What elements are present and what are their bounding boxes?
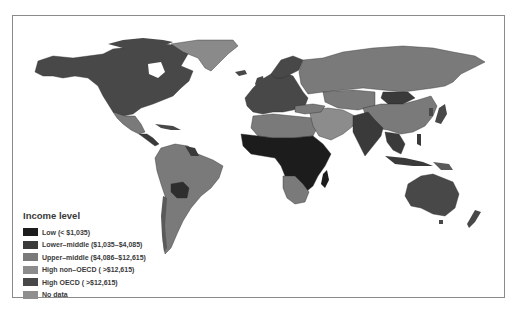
- legend-swatch: [23, 278, 38, 286]
- legend-label: Lower–middle ($1,035–$4,085): [42, 241, 142, 248]
- legend-label: High OECD ( >$12,615): [42, 279, 118, 286]
- region-north-africa: [251, 114, 317, 138]
- legend-swatch: [23, 241, 38, 249]
- region-north-america: [35, 44, 193, 116]
- region-southeast-asia: [385, 132, 405, 154]
- region-caribbean: [155, 124, 181, 130]
- region-tasmania: [439, 220, 443, 224]
- legend-label: Low (< $1,035): [42, 229, 90, 236]
- region-scandinavia: [271, 56, 303, 78]
- legend-item-low: Low (< $1,035): [23, 226, 146, 238]
- region-new-zealand: [467, 210, 481, 228]
- legend-title: Income level: [23, 210, 146, 221]
- legend-label: No data: [42, 291, 68, 298]
- region-central-america: [139, 134, 159, 146]
- region-madagascar: [321, 170, 329, 188]
- region-australia: [405, 174, 459, 216]
- legend-label: Upper–middle ($4,086–$12,615): [42, 254, 146, 261]
- legend-item-high-non-oecd: High non–OECD ( >$12,615): [23, 264, 146, 276]
- map-frame: Income level Low (< $1,035) Lower–middle…: [12, 15, 505, 298]
- legend-swatch: [23, 253, 38, 261]
- legend: Income level Low (< $1,035) Lower–middle…: [23, 210, 146, 301]
- legend-item-upper-middle: Upper–middle ($4,086–$12,615): [23, 251, 146, 263]
- legend-item-no-data: No data: [23, 289, 146, 301]
- region-philippines: [417, 134, 421, 146]
- legend-item-high-oecd: High OECD ( >$12,615): [23, 276, 146, 288]
- region-korea: [429, 108, 433, 116]
- region-russia: [299, 46, 485, 94]
- legend-label: High non–OECD ( >$12,615): [42, 266, 134, 273]
- region-indonesia: [385, 156, 433, 166]
- legend-swatch: [23, 291, 38, 299]
- legend-swatch: [23, 266, 38, 274]
- legend-item-lower-middle: Lower–middle ($1,035–$4,085): [23, 239, 146, 251]
- region-mexico: [113, 112, 145, 134]
- legend-swatch: [23, 228, 38, 236]
- region-papua: [433, 162, 453, 170]
- region-iceland: [235, 70, 247, 76]
